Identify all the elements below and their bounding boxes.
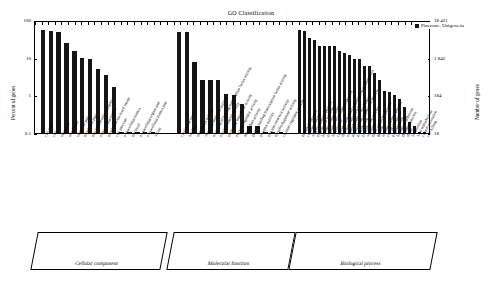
top-tick — [134, 22, 135, 25]
top-tick — [220, 22, 221, 25]
bar — [177, 32, 181, 133]
top-tick — [167, 22, 168, 25]
top-tick — [180, 22, 181, 25]
top-tick — [385, 22, 386, 25]
y-tick-label-right: 18 — [434, 131, 452, 136]
top-tick — [358, 22, 359, 25]
top-tick — [207, 22, 208, 25]
group-bracket: Molecular function — [166, 232, 295, 270]
top-tick — [339, 22, 340, 25]
top-tick — [292, 22, 293, 25]
top-tick — [147, 22, 148, 25]
top-tick — [213, 22, 214, 25]
top-tick — [68, 22, 69, 25]
top-tick — [246, 22, 247, 25]
top-tick — [266, 22, 267, 25]
top-tick — [200, 22, 201, 25]
y-axis-label-right: Number of genes — [474, 84, 480, 120]
group-label: Molecular function — [168, 260, 289, 266]
top-tick — [81, 22, 82, 25]
bar — [41, 30, 45, 133]
category-label: cell — [51, 130, 58, 138]
top-tick — [345, 22, 346, 25]
top-tick — [259, 22, 260, 25]
top-tick — [101, 22, 102, 25]
top-tick — [325, 22, 326, 25]
legend-swatch-icon — [415, 24, 419, 28]
y-tick-label-left: 1 — [19, 93, 31, 98]
top-tick — [279, 22, 280, 25]
top-tick — [193, 22, 194, 25]
top-tick — [55, 22, 56, 25]
legend: Pinecone. Unigene.fa — [413, 22, 466, 29]
y-tick-label-left: 10 — [19, 56, 31, 61]
top-tick — [240, 22, 241, 25]
group-bracket: Biological process — [288, 232, 437, 270]
y-tick-mark-left — [34, 59, 37, 60]
y-tick-mark-right — [428, 59, 431, 60]
y-tick-mark-left — [34, 21, 37, 22]
y-tick-label-right: 1 842 — [434, 56, 452, 61]
group-bracket: Cellular component — [30, 232, 167, 270]
top-tick — [286, 22, 287, 25]
top-tick — [42, 22, 43, 25]
category-tick-labels: cell partcellorganellemembraneorganelle … — [34, 135, 434, 230]
top-tick — [312, 22, 313, 25]
top-tick — [160, 22, 161, 25]
chart-title: GO Classification — [0, 10, 502, 16]
top-tick — [35, 22, 36, 25]
top-tick — [391, 22, 392, 25]
bar — [49, 31, 53, 133]
top-tick — [372, 22, 373, 25]
top-tick — [127, 22, 128, 25]
top-tick — [352, 22, 353, 25]
bar — [303, 31, 306, 133]
top-tick — [108, 22, 109, 25]
go-classification-figure: GO Classification 0.1110100 181841 84218… — [0, 0, 502, 290]
y-tick-label-right: 184 — [434, 93, 452, 98]
top-tick — [253, 22, 254, 25]
top-tick — [88, 22, 89, 25]
top-tick — [114, 22, 115, 25]
top-tick — [174, 22, 175, 25]
top-tick — [319, 22, 320, 25]
bar — [56, 32, 60, 133]
top-tick — [187, 22, 188, 25]
legend-label: Pinecone. Unigene.fa — [421, 23, 464, 28]
top-tick — [141, 22, 142, 25]
top-tick — [61, 22, 62, 25]
bar — [298, 30, 301, 133]
y-tick-mark-right — [428, 96, 431, 97]
y-axis-label-left: Percent of genes — [10, 86, 16, 120]
group-label: Cellular component — [32, 260, 161, 266]
top-tick — [299, 22, 300, 25]
bar — [192, 62, 196, 133]
y-tick-label-left: 0.1 — [19, 131, 31, 136]
top-tick — [75, 22, 76, 25]
y-tick-mark-left — [34, 96, 37, 97]
top-tick — [398, 22, 399, 25]
top-tick — [121, 22, 122, 25]
top-tick — [226, 22, 227, 25]
top-tick — [154, 22, 155, 25]
top-tick — [306, 22, 307, 25]
top-tick — [94, 22, 95, 25]
top-tick — [273, 22, 274, 25]
top-tick — [332, 22, 333, 25]
top-tick — [233, 22, 234, 25]
top-tick — [365, 22, 366, 25]
top-tick — [48, 22, 49, 25]
y-tick-label-left: 100 — [19, 18, 31, 23]
top-tick — [405, 22, 406, 25]
group-label: Biological process — [290, 260, 431, 266]
bar — [64, 43, 68, 133]
top-tick — [378, 22, 379, 25]
